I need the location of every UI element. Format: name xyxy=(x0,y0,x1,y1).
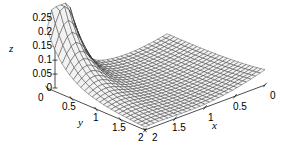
z-tick-label-005: 0.05 xyxy=(14,68,52,79)
y-tick-label-2: 2 xyxy=(138,132,144,143)
y-tick-label-05: 0.5 xyxy=(62,101,76,112)
x-tick-label-15: 1.5 xyxy=(172,122,186,133)
y-tick-label-15: 1.5 xyxy=(112,122,126,133)
x-tick-label-05: 0.5 xyxy=(233,101,247,112)
z-axis-label: z xyxy=(9,42,13,54)
z-tick-label-015: 0.15 xyxy=(14,40,52,51)
surface-plot: 0 0.05 0.1 0.15 0.2 0.25 z 0 0.5 1 1.5 2… xyxy=(0,0,292,157)
z-tick-label-0: 0 xyxy=(14,82,52,93)
y-axis-label: y xyxy=(78,116,83,128)
x-tick-label-0: 0 xyxy=(270,90,276,101)
x-tick-label-2: 2 xyxy=(152,132,158,143)
y-tick-label-1: 1 xyxy=(93,112,99,123)
z-tick-label-025: 0.25 xyxy=(14,12,52,23)
y-tick-label-0: 0 xyxy=(38,92,44,103)
z-tick-label-02: 0.2 xyxy=(14,26,52,37)
z-tick-label-01: 0.1 xyxy=(14,54,52,65)
x-axis-label: x xyxy=(212,119,217,131)
